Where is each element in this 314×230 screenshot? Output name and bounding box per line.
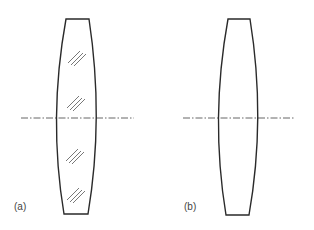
glass-hatch-icon <box>66 51 86 203</box>
panel-a <box>21 19 134 214</box>
lens-outline-a <box>56 19 96 214</box>
panel-label-a: (a) <box>14 202 26 212</box>
panel-label-b: (b) <box>184 202 196 212</box>
lens-outline-b <box>218 19 257 215</box>
lens-diagram <box>0 0 314 230</box>
panel-b <box>183 19 294 215</box>
